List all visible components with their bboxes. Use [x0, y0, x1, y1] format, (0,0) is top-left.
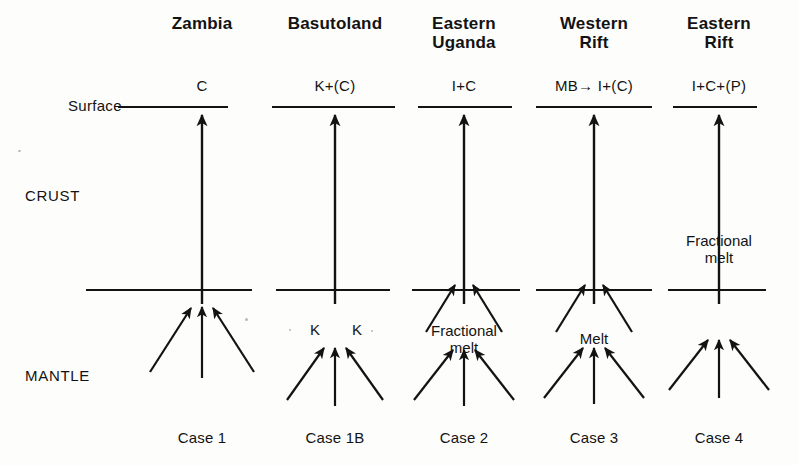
crust-region-label: CRUST	[25, 188, 80, 205]
column-title-3: EasternUganda	[432, 14, 496, 52]
product-label-5: I+C+(P)	[692, 78, 747, 95]
mantle-inflow-arrow-right-5	[730, 340, 769, 390]
product-label-3: I+C	[452, 78, 477, 95]
mantle-region-label: MANTLE	[25, 368, 90, 385]
mantle-inflow-arrow-left-1	[150, 308, 191, 372]
column-title-1: Zambia	[172, 14, 233, 33]
column-title-line: Uganda	[432, 33, 496, 52]
column-title-line: Eastern	[432, 14, 496, 33]
annotation-note-line: Fractional	[686, 232, 752, 249]
case-label-5: Case 4	[695, 430, 744, 447]
column-title-line: Zambia	[172, 14, 233, 33]
column-title-line: Eastern	[687, 14, 751, 33]
product-label-1: C	[196, 78, 207, 95]
magma-generation-diagram: Surface CRUST MANTLE ZambiaCCase 1Basuto…	[0, 0, 798, 465]
annotation-note-line: melt	[431, 339, 497, 356]
mantle-inflow-arrow-right-1	[213, 308, 254, 372]
paper-speck	[289, 329, 291, 331]
case-label-3: Case 2	[440, 430, 489, 447]
annotation-note-4-1: Melt	[580, 330, 608, 347]
product-label-2: K+(C)	[314, 78, 355, 95]
potassium-label-left-2: K	[310, 322, 320, 339]
annotation-note-line: Melt	[580, 330, 608, 347]
mantle-inflow-arrow-left-3	[414, 350, 453, 400]
diagram-canvas	[0, 0, 798, 465]
annotation-note-3-1: Fractionalmelt	[431, 322, 497, 357]
annotation-note-5-1: Fractionalmelt	[686, 232, 752, 267]
surface-axis-label: Surface	[68, 98, 122, 115]
column-title-5: EasternRift	[687, 14, 751, 52]
product-label-4: MB→ I+(C)	[555, 78, 633, 95]
column-title-line: Rift	[687, 33, 751, 52]
column-title-2: Basutoland	[288, 14, 383, 33]
column-title-line: Rift	[560, 33, 628, 52]
mantle-inflow-arrow-right-3	[475, 350, 514, 400]
mantle-inflow-arrow-right-4	[605, 348, 644, 398]
case-label-2: Case 1B	[306, 430, 365, 447]
annotation-note-line: Fractional	[431, 322, 497, 339]
mantle-inflow-arrow-left-2	[287, 348, 324, 400]
mantle-inflow-arrow-right-2	[346, 348, 383, 400]
boundary-crossing-arrow-left-4	[556, 285, 585, 332]
potassium-label-right-2: K	[352, 322, 362, 339]
column-title-line: Western	[560, 14, 628, 33]
annotation-note-line: melt	[686, 249, 752, 266]
column-title-line: Basutoland	[288, 14, 383, 33]
column-title-4: WesternRift	[560, 14, 628, 52]
case-label-4: Case 3	[570, 430, 619, 447]
paper-speck	[371, 330, 373, 332]
paper-speck	[245, 318, 248, 321]
mantle-inflow-arrow-left-4	[544, 348, 583, 398]
boundary-crossing-arrow-right-4	[603, 285, 632, 332]
diagram-artwork	[86, 107, 769, 406]
paper-speck	[18, 150, 21, 152]
case-label-1: Case 1	[178, 430, 227, 447]
mantle-inflow-arrow-left-5	[669, 340, 708, 390]
